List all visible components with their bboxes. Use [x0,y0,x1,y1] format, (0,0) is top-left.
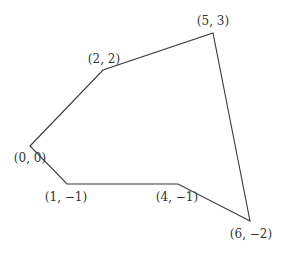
vertex-label-2-2: (2, 2) [88,52,120,66]
polygon-diagram: (0, 0) (2, 2) (5, 3) (6, −2) (4, −1) (1,… [0,0,282,253]
vertex-label-6-neg2: (6, −2) [230,227,272,241]
vertex-label-4-neg1: (4, −1) [156,190,198,204]
vertex-label-5-3: (5, 3) [197,14,229,28]
vertex-label-0-0: (0, 0) [14,151,46,165]
vertex-label-1-neg1: (1, −1) [45,190,87,204]
